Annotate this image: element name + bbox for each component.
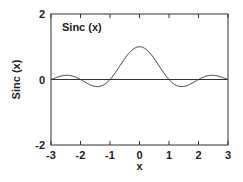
- x-tick-label: -3: [46, 149, 56, 161]
- y-tick-label: -2: [35, 139, 45, 151]
- x-tick-label: 2: [195, 149, 201, 161]
- x-axis-label: x: [136, 160, 143, 172]
- x-tick-label: 1: [166, 149, 172, 161]
- y-axis-label: Sinc (x): [10, 59, 22, 99]
- y-tick-label: 2: [39, 8, 45, 20]
- series-annotation: Sinc (x): [62, 21, 102, 33]
- sinc-curve: [51, 47, 228, 87]
- y-tick-labels: 20-2: [35, 8, 45, 151]
- x-tick-label: -2: [76, 149, 86, 161]
- y-tick-label: 0: [39, 74, 45, 86]
- x-tick-label: -1: [105, 149, 115, 161]
- chart: -3-2-10123 20-2 Sinc (x) x Sinc (x): [0, 0, 243, 182]
- x-tick-label: 3: [225, 149, 231, 161]
